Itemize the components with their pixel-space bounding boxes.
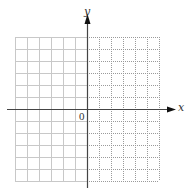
y-axis-label: y bbox=[84, 6, 90, 17]
x-axis-arrow-icon bbox=[167, 107, 176, 113]
x-axis-label: x bbox=[178, 102, 184, 113]
axes bbox=[7, 14, 176, 188]
origin-label: 0 bbox=[79, 111, 85, 122]
coordinate-plane bbox=[0, 0, 190, 191]
